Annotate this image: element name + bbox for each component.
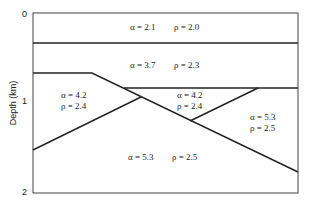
tick-label-0: 0	[22, 9, 27, 19]
middle-wedge-alpha: α = 4.2	[177, 90, 203, 100]
layer1-rho: ρ = 2.0	[174, 22, 200, 32]
layer1-alpha: α = 2.1	[130, 22, 156, 32]
right-block-rho: ρ = 2.5	[250, 123, 276, 133]
right-block-alpha: α = 5.3	[250, 112, 276, 122]
boundary-left-wedge-base	[33, 97, 141, 150]
layer2-alpha: α = 3.7	[130, 60, 156, 70]
layer2-rho: ρ = 2.3	[174, 60, 200, 70]
velocity-density-model-diagram: 0 1 2 Depth (km) α = 2.1 ρ = 2.0 α = 3.7…	[0, 0, 313, 205]
bottom-layer-alpha: α = 5.3	[128, 152, 154, 162]
axis-title: Depth (km)	[8, 81, 18, 126]
tick-label-1: 1	[22, 96, 27, 106]
middle-wedge-rho: ρ = 2.4	[177, 101, 203, 111]
tick-label-2: 2	[22, 187, 27, 197]
bottom-layer-rho: ρ = 2.5	[172, 152, 198, 162]
left-wedge-rho: ρ = 2.4	[61, 101, 87, 111]
left-wedge-alpha: α = 4.2	[61, 90, 87, 100]
